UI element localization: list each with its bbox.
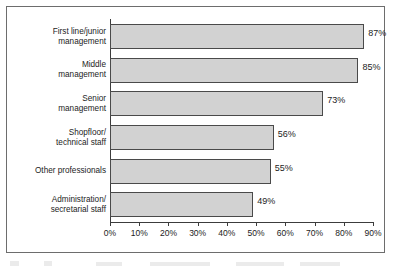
scan-artifact [150,262,210,266]
axis-tick [315,222,316,226]
axis-tick [285,222,286,226]
axis-tick [344,222,345,226]
axis-tick [139,222,140,226]
plot-area: 87%85%73%56%55%49% [110,20,373,222]
scan-artifact [300,262,340,266]
bar-value-label: 73% [327,95,345,106]
category-label-line: Shopfloor/ [69,128,106,137]
scan-artifact [236,262,284,266]
bar [110,58,358,83]
bar-row: 87% [110,20,373,54]
category-label-line: technical staff [56,138,106,147]
category-label-line: First line/junior [53,27,106,36]
bar [110,24,364,49]
category-label: Seniormanagement [2,94,106,114]
value-axis-line [110,222,374,223]
bar [110,159,271,184]
bar-value-label: 56% [278,129,296,140]
axis-tick-label: 50% [241,228,271,239]
bar-value-label: 49% [257,196,275,207]
axis-tick-label: 40% [212,228,242,239]
axis-tick-label: 30% [183,228,213,239]
axis-tick [227,222,228,226]
bar-row: 55% [110,155,373,189]
axis-tick-label: 70% [300,228,330,239]
axis-tick-label: 80% [329,228,359,239]
axis-tick-label: 20% [153,228,183,239]
category-label: Middlemanagement [2,60,106,80]
category-label-line: management [58,104,106,113]
category-label-line: management [58,37,106,46]
axis-tick [256,222,257,226]
category-label-line: Middle [82,60,106,69]
category-axis-labels: First line/juniormanagementMiddlemanagem… [0,20,106,222]
bar-value-label: 87% [368,28,386,39]
bar-value-label: 55% [275,163,293,174]
scan-artifact [10,261,19,266]
bar [110,192,253,217]
scan-artifact [96,262,122,266]
axis-tick-label: 10% [124,228,154,239]
bar-row: 49% [110,188,373,222]
bar-row: 56% [110,121,373,155]
axis-tick [198,222,199,226]
bar-value-label: 85% [362,62,380,73]
category-label: First line/juniormanagement [2,27,106,47]
axis-tick [168,222,169,226]
bar [110,125,274,150]
axis-tick [110,222,111,226]
bar-row: 85% [110,54,373,88]
category-label: Administration/secretarial staff [2,195,106,215]
category-label-line: Administration/ [52,195,106,204]
axis-tick-label: 60% [270,228,300,239]
axis-tick [373,222,374,226]
scan-artifact [44,261,52,266]
category-label-line: Other professionals [35,166,106,175]
category-label: Shopfloor/technical staff [2,128,106,148]
axis-tick-label: 90% [358,228,388,239]
category-label: Other professionals [2,166,106,176]
bar-row: 73% [110,87,373,121]
category-label-line: management [58,70,106,79]
axis-tick-label: 0% [95,228,125,239]
category-label-line: Senior [82,94,106,103]
category-label-line: secretarial staff [51,205,106,214]
bar [110,91,323,116]
chart-figure: First line/juniormanagementMiddlemanagem… [0,0,396,269]
